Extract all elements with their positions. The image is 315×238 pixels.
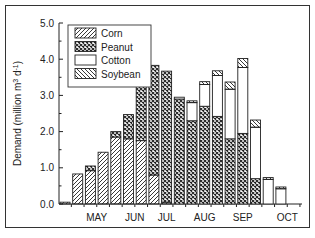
bar-stack [73, 174, 83, 204]
bar-segment-corn [136, 141, 146, 204]
bar-segment-soybean [212, 71, 222, 76]
bar-segment-cotton [212, 75, 222, 116]
y-tick-label: 2.0 [40, 126, 54, 137]
legend-label-corn: Corn [101, 28, 123, 39]
bar-segment-corn [98, 152, 108, 204]
bar-segment-soybean [263, 178, 273, 180]
bar-stack [276, 187, 286, 204]
bar-segment-cotton [251, 127, 261, 178]
bar-segment-peanut [200, 106, 210, 204]
bar-segment-peanut [238, 133, 248, 204]
bar-stack [60, 202, 70, 204]
bar-segment-soybean [238, 58, 248, 67]
bar-segment-corn [85, 171, 95, 204]
bar-stack [162, 71, 172, 204]
bar-segment-cotton [187, 103, 197, 121]
chart-frame: 0.01.02.03.04.05.0MAYJUNJULAUGSEPOCTDema… [5, 5, 310, 228]
bar-stack [212, 71, 222, 204]
y-tick-label: 5.0 [40, 18, 54, 29]
x-tick-label: MAY [86, 212, 107, 223]
bar-segment-corn [124, 139, 134, 204]
bar-segment-soybean [225, 82, 235, 89]
y-tick-label: 3.0 [40, 90, 54, 101]
bar-segment-peanut [212, 116, 222, 204]
x-tick-label: OCT [277, 212, 298, 223]
bar-segment-peanut [85, 166, 95, 171]
bar-segment-cotton [276, 189, 286, 204]
bar-stack [200, 82, 210, 204]
bar-segment-peanut [251, 179, 261, 204]
bar-segment-cotton [200, 85, 210, 107]
bar-stack [124, 115, 134, 204]
x-tick-label: SEP [233, 212, 253, 223]
bar-segment-cotton [225, 89, 235, 139]
bar-segment-corn [73, 174, 83, 204]
legend-swatch-peanut [75, 42, 96, 52]
legend-label-peanut: Peanut [101, 42, 133, 53]
bar-segment-corn [111, 137, 121, 204]
y-tick-label: 1.0 [40, 162, 54, 173]
x-tick-label: JUN [125, 212, 144, 223]
bar-segment-soybean [200, 82, 210, 85]
bar-segment-peanut [225, 139, 235, 204]
bar-segment-soybean [187, 101, 197, 103]
bar-segment-soybean [276, 187, 286, 189]
bar-segment-corn [149, 175, 159, 204]
legend-swatch-corn [75, 28, 96, 38]
bar-segment-peanut [162, 71, 172, 202]
x-tick-label: JUL [158, 212, 176, 223]
bar-segment-cotton [174, 97, 184, 99]
bar-segment-corn [60, 202, 70, 204]
stacked-bar-chart: 0.01.02.03.04.05.0MAYJUNJULAUGSEPOCTDema… [6, 6, 311, 229]
bar-segment-cotton [238, 68, 248, 134]
y-tick-label: 0.0 [40, 199, 54, 210]
y-axis-label: Demand (million m3 d-1) [12, 61, 24, 166]
bar-segment-peanut [136, 83, 146, 140]
bar-stack [251, 120, 261, 204]
bar-segment-cotton [263, 179, 273, 204]
bar-stack [187, 101, 197, 204]
bar-segment-peanut [111, 132, 121, 137]
legend: CornPeanutCottonSoybean [68, 25, 151, 87]
legend-swatch-cotton [75, 55, 96, 65]
legend-label-soybean: Soybean [101, 69, 140, 80]
x-tick-label: AUG [194, 212, 216, 223]
bar-segment-peanut [187, 121, 197, 204]
legend-swatch-soybean [75, 69, 96, 79]
bar-segment-soybean [251, 120, 261, 127]
bar-stack [225, 82, 235, 204]
bar-stack [98, 152, 108, 204]
y-tick-label: 4.0 [40, 54, 54, 65]
bar-stack [263, 178, 273, 204]
bar-segment-peanut [124, 115, 134, 139]
bar-stack [238, 58, 248, 204]
bar-stack [111, 132, 121, 204]
bar-stack [136, 83, 146, 204]
bar-stack [85, 166, 95, 204]
bar-stack [174, 97, 184, 204]
bar-segment-peanut [174, 99, 184, 204]
legend-label-cotton: Cotton [101, 55, 130, 66]
